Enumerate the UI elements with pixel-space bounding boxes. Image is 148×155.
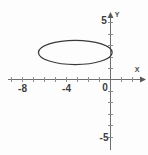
origin-label: 0 — [102, 82, 108, 93]
x-axis-label: X — [135, 66, 140, 73]
coordinate-plane-svg: -8 -4 0 5 -5 X Y — [0, 0, 148, 155]
y-axis-arrow-icon — [108, 12, 114, 18]
chart-figure: -8 -4 0 5 -5 X Y — [0, 0, 148, 155]
x-axis-arrow-icon — [140, 77, 146, 83]
y-axis-label: Y — [115, 11, 120, 18]
ellipse-curve — [38, 40, 112, 64]
x-tick-label-minus8: -8 — [18, 83, 27, 94]
y-tick-label-minus5: -5 — [100, 132, 109, 143]
y-tick-label-5: 5 — [101, 15, 107, 26]
x-tick-label-minus4: -4 — [62, 83, 71, 94]
